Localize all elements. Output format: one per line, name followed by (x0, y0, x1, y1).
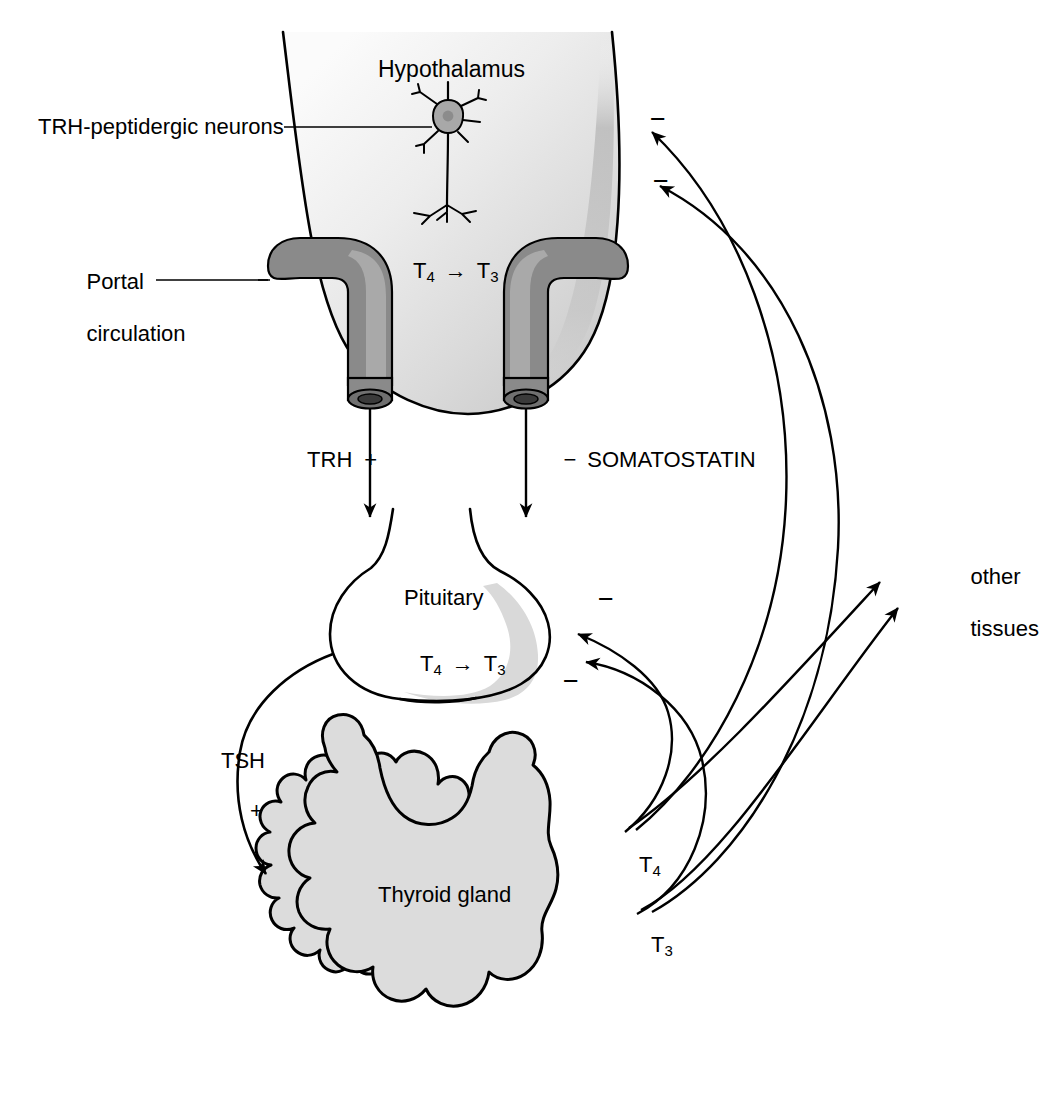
pituitary-lower-feedback-sign: − (563, 666, 579, 698)
other-tissues-label: other tissues (946, 538, 1039, 668)
neuron-axon (447, 133, 448, 205)
somatostatin-label: −SOMATOSTATIN (539, 421, 756, 499)
other-tissues-label-line1: other (970, 564, 1020, 589)
portal-tube-right-lumen (514, 394, 538, 404)
hypothalamus-label: Hypothalamus (378, 56, 525, 83)
hypothalamus-t3-subscript: 3 (490, 268, 498, 285)
hypothalamus-group (283, 32, 619, 414)
pituitary-t4-subscript: 4 (434, 661, 442, 678)
thyroid-label: Thyroid gland (378, 882, 511, 908)
hpt-axis-diagram: Hypothalamus TRH-peptidergic neurons Por… (0, 0, 1050, 1097)
tsh-sign: + (250, 798, 263, 824)
hypothalamus-lower-feedback-sign: − (653, 166, 669, 198)
neuron-nucleus (443, 111, 454, 122)
portal-circulation-label-line2: circulation (86, 321, 185, 346)
t3-source-name: T (651, 932, 664, 957)
t3-to-other-tissues-arrow (641, 608, 898, 910)
trh-neurons-label: TRH-peptidergic neurons (38, 114, 284, 140)
hypothalamus-conversion: T4→T3 (389, 232, 499, 312)
other-tissues-label-line2: tissues (970, 616, 1038, 641)
hypothalamus-conversion-arrow-icon: → (435, 258, 477, 283)
somatostatin-sign: − (563, 447, 576, 472)
trh-label: TRH+ (283, 421, 377, 499)
diagram-graphics (0, 0, 1050, 1097)
pituitary-upper-feedback-sign: − (598, 584, 614, 616)
t3-source-subscript: 3 (665, 942, 673, 959)
portal-tube-left-lumen (358, 394, 382, 404)
t4-source-subscript: 4 (653, 862, 661, 879)
hypothalamus-t4-subscript: 4 (427, 268, 435, 285)
t4-source-label: T4 (615, 826, 661, 906)
somatostatin-name: SOMATOSTATIN (576, 447, 755, 472)
t3-feedback-to-hypothalamus-arrow (652, 186, 839, 912)
trh-sign: + (352, 447, 377, 472)
portal-circulation-label: Portal circulation (62, 243, 192, 373)
tsh-label: TSH (221, 748, 265, 774)
pituitary-label: Pituitary (404, 585, 483, 611)
pituitary-t4-label: T (420, 651, 433, 676)
t4-source-name: T (639, 852, 652, 877)
portal-circulation-label-line1: Portal (86, 269, 143, 294)
pituitary-t3-label: T (484, 651, 497, 676)
pituitary-conversion: T4→T3 (396, 625, 506, 705)
pituitary-t3-subscript: 3 (497, 661, 505, 678)
hypothalamus-upper-feedback-sign: − (650, 104, 666, 136)
hypothalamus-t3-label: T (477, 258, 490, 283)
pituitary-conversion-arrow-icon: → (442, 651, 484, 676)
trh-name: TRH (307, 447, 352, 472)
hypothalamus-t4-label: T (413, 258, 426, 283)
t3-source-label: T3 (627, 906, 673, 986)
